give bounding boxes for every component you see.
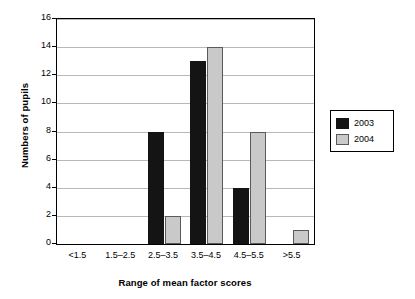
y-tick-mark	[52, 18, 56, 19]
bar	[250, 132, 266, 245]
gridline	[57, 188, 314, 189]
plot-area	[56, 18, 315, 245]
bar	[207, 47, 223, 244]
gridline	[57, 160, 314, 161]
y-tick-label: 12	[23, 68, 51, 78]
y-tick-mark	[52, 74, 56, 75]
bar	[148, 132, 164, 245]
gridline	[57, 19, 314, 20]
gridline	[57, 47, 314, 48]
y-tick-label: 8	[23, 125, 51, 135]
legend-label-2003: 2003	[354, 118, 374, 128]
legend-swatch-2004	[336, 134, 349, 145]
legend-label-2004: 2004	[354, 134, 374, 144]
gridline	[57, 216, 314, 217]
x-tick-label: >5.5	[262, 250, 322, 260]
y-tick-mark	[52, 102, 56, 103]
bar	[293, 230, 309, 244]
x-axis-title: Range of mean factor scores	[40, 277, 330, 288]
gridline	[57, 75, 314, 76]
y-tick-mark	[52, 243, 56, 244]
legend: 2003 2004	[330, 110, 394, 152]
y-tick-mark	[52, 159, 56, 160]
bar-chart: Numbers of pupils 0246810121416 <1.51.5–…	[0, 0, 415, 299]
y-tick-label: 16	[23, 12, 51, 22]
y-tick-mark	[52, 215, 56, 216]
y-tick-label: 10	[23, 96, 51, 106]
y-tick-label: 14	[23, 40, 51, 50]
gridline	[57, 132, 314, 133]
y-tick-mark	[52, 131, 56, 132]
y-tick-mark	[52, 46, 56, 47]
y-tick-label: 2	[23, 209, 51, 219]
y-tick-mark	[52, 187, 56, 188]
legend-swatch-2003	[336, 118, 349, 129]
y-tick-label: 6	[23, 153, 51, 163]
bar	[233, 188, 249, 244]
bar	[165, 216, 181, 244]
y-tick-label: 0	[23, 237, 51, 247]
y-tick-label: 4	[23, 181, 51, 191]
gridline	[57, 103, 314, 104]
legend-item-2003: 2003	[336, 116, 389, 130]
legend-item-2004: 2004	[336, 132, 389, 146]
bar	[190, 61, 206, 244]
